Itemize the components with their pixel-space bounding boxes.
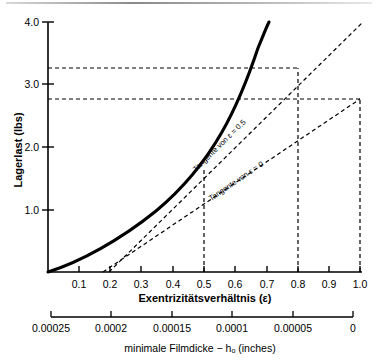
y-tick-label-2: 2.0 (24, 141, 39, 153)
tangent-line-eps-0-5 (109, 23, 362, 272)
secondary-label-0: 0 (350, 322, 356, 334)
x-tick-label-0-4: 0.4 (166, 278, 181, 290)
tangent-label-eps-0: Tangente von ε = 0 (207, 159, 265, 202)
x-tick-label-0-9: 0.9 (322, 278, 337, 290)
x-axis-tick-labels: 0.1 0.2 0.3 0.4 0.5 0.6 0.7 0.8 0.9 1.0 (72, 278, 368, 290)
y-tick-label-3: 3.0 (24, 78, 39, 90)
chart-figure: 4.0 3.0 2.0 1.0 0.1 0.2 0.3 0.4 0.5 0.6 … (0, 0, 379, 364)
annotation-tangent-eps-0: Tangente von ε = 0 (207, 159, 265, 202)
secondary-label-0-00025: 0.00025 (32, 322, 70, 334)
y-axis-title: Lagerlast (lbs) (12, 112, 24, 188)
x-axis-title: Exentrizitätsverhältnis (ε) (139, 292, 272, 304)
y-axis-tick-labels: 4.0 3.0 2.0 1.0 (24, 16, 39, 216)
secondary-label-0-0002: 0.0002 (95, 322, 127, 334)
chart-svg: 4.0 3.0 2.0 1.0 0.1 0.2 0.3 0.4 0.5 0.6 … (0, 0, 379, 364)
x-tick-label-0-5: 0.5 (197, 278, 212, 290)
x-tick-label-0-7: 0.7 (260, 278, 275, 290)
annotation-tangent-eps-0-5: Tangente von ε = 0.5 (191, 118, 247, 174)
y-tick-label-1: 1.0 (24, 204, 39, 216)
secondary-x-axis (51, 311, 353, 317)
tangent-lines (103, 23, 362, 272)
secondary-label-0-00015: 0.00015 (153, 322, 191, 334)
axes (48, 22, 362, 272)
secondary-x-axis-labels: 0.00025 0.0002 0.00015 0.0001 0.00005 0 (32, 322, 356, 334)
secondary-x-axis-title: minimale Filmdicke − hₒ (inches) (124, 342, 275, 354)
secondary-label-0-0001: 0.0001 (216, 322, 248, 334)
x-tick-label-0-6: 0.6 (228, 278, 243, 290)
guide-lines (48, 68, 360, 272)
y-tick-label-4: 4.0 (24, 16, 39, 28)
x-tick-label-0-2: 0.2 (103, 278, 118, 290)
x-tick-label-0-3: 0.3 (134, 278, 149, 290)
tangent-label-eps-0-5: Tangente von ε = 0.5 (191, 118, 247, 174)
x-axis-ticks (79, 266, 360, 272)
x-tick-label-0-1: 0.1 (72, 278, 87, 290)
x-tick-label-0-8: 0.8 (291, 278, 306, 290)
secondary-label-0-00005: 0.00005 (274, 322, 312, 334)
x-tick-label-1-0: 1.0 (353, 278, 368, 290)
